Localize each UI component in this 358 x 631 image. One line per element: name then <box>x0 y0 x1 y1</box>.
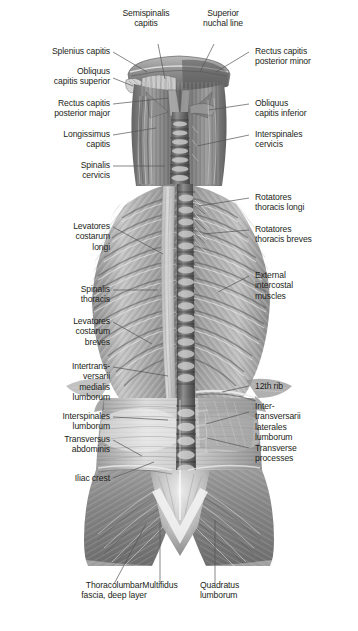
label-interspinales-lumborum: Interspinales lumborum <box>6 411 110 432</box>
label-spinalis-cervicis: Spinalis cervicis <box>10 160 110 181</box>
cervical-region <box>130 80 227 188</box>
label-12th-rib: 12th rib <box>255 381 355 391</box>
label-rotatores-thoracis-longi: Rotatores thoracis longi <box>255 192 355 213</box>
cervical-spine <box>170 112 190 186</box>
label-obliquus-capitis-inferior: Obliquus capitis inferior <box>255 98 355 119</box>
label-intertransversarii-laterales-lumborum: Inter- transversarii laterales lumborum <box>255 401 355 443</box>
label-semispinalis-capitis: Semispinalis capitis <box>103 8 189 29</box>
label-transverse-processes: Transverse processes <box>255 443 355 464</box>
label-levatores-costarum-longi: Levatores costarum longi <box>10 221 110 252</box>
label-levatores-costarum-breves: Levatores costarum breves <box>10 316 110 347</box>
label-transversus-abdominis: Transversus abdominis <box>10 434 110 455</box>
label-external-intercostal-muscles: External intercostal muscles <box>255 270 355 301</box>
label-splenius-capitis: Splenius capitis <box>10 46 110 56</box>
label-rectus-capitis-posterior-major: Rectus capitis posterior major <box>10 98 110 119</box>
label-iliac-crest: Iliac crest <box>10 473 110 483</box>
label-obliquus-capitis-superior: Obliquus capitis superior <box>10 66 110 87</box>
label-longissimus-capitis: Longissimus capitis <box>10 129 110 150</box>
label-rectus-capitis-posterior-minor: Rectus capitis posterior minor <box>255 46 355 67</box>
label-quadratus-lumborum: Quadratus lumborum <box>200 580 280 601</box>
label-multifidus: Multifidus <box>131 580 189 590</box>
label-superior-nuchal-line: Superior nuchal line <box>180 8 266 29</box>
leader-rectus-capitis-posterior-minor <box>216 52 249 72</box>
thoracic-region <box>88 180 273 405</box>
label-rotatores-thoracis-breves: Rotatores thoracis breves <box>255 224 357 245</box>
label-interspinales-cervicis: Interspinales cervicis <box>255 129 355 150</box>
label-spinalis-thoracis: Spinalis thoracis <box>10 284 110 305</box>
label-intertransversarii-mediales-lumborum: Intertrans- versarii medialis lumborum <box>10 361 110 403</box>
